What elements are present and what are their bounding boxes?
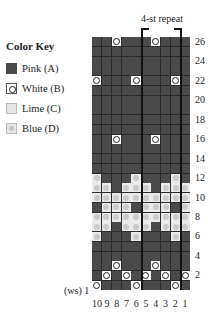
chart-cell (171, 37, 180, 46)
chart-cell (122, 125, 131, 134)
chart-cell (131, 174, 140, 183)
chart-cell (151, 164, 160, 173)
chart-cell (161, 105, 170, 114)
column-number-label: 4 (151, 298, 161, 309)
chart-cell (122, 193, 131, 202)
chart-cell (112, 203, 121, 212)
chart-cell (112, 242, 121, 251)
chart-cell (161, 125, 170, 134)
column-number-label: 8 (112, 298, 122, 309)
chart-cell (171, 174, 180, 183)
chart-cell (122, 57, 131, 66)
chart-cell (122, 115, 131, 124)
dotted-square-icon (6, 123, 17, 134)
chart-cell (181, 174, 190, 183)
repeat-label: 4-st repeat (140, 13, 184, 24)
chart-cell (161, 232, 170, 241)
chart-cell (161, 203, 170, 212)
chart-cell (171, 271, 180, 280)
key-item-pink: Pink (A) (6, 58, 90, 78)
column-number-label: 5 (141, 298, 151, 309)
chart-cell (112, 193, 121, 202)
chart-cell (171, 96, 180, 105)
chart-cell (181, 86, 190, 95)
row-number-label: 16 (195, 134, 205, 144)
chart-cell (131, 135, 140, 144)
chart-cell (171, 193, 180, 202)
chart-cell (151, 115, 160, 124)
chart-cell (92, 135, 101, 144)
chart-cell (131, 125, 140, 134)
chart-cell (122, 47, 131, 56)
chart-cell (92, 154, 101, 163)
chart-cell (131, 86, 140, 95)
chart-cell (181, 164, 190, 173)
column-number-label: 3 (161, 298, 171, 309)
row-number-label: 4 (195, 251, 200, 261)
chart-cell (122, 66, 131, 75)
chart-cell (131, 66, 140, 75)
chart-cell (102, 66, 111, 75)
chart-cell (122, 183, 131, 192)
chart-cell (171, 105, 180, 114)
chart-cell (92, 271, 101, 280)
chart-cell (112, 57, 121, 66)
chart-cell (102, 37, 111, 46)
chart-cell (102, 193, 111, 202)
row-number-label: 20 (195, 95, 205, 105)
chart-cell (151, 174, 160, 183)
chart-cell (112, 105, 121, 114)
chart-cell (112, 261, 121, 270)
chart-cell (151, 154, 160, 163)
chart-cell (151, 144, 160, 153)
chart-cell (92, 57, 101, 66)
chart-cell (131, 271, 140, 280)
chart-cell (122, 76, 131, 85)
key-item-blue: Blue (D) (6, 118, 90, 138)
chart-cell (92, 183, 101, 192)
chart-cell (151, 135, 160, 144)
chart-cell (92, 37, 101, 46)
chart-cell (151, 271, 160, 280)
chart-cell (181, 222, 190, 231)
chart-cell (181, 125, 190, 134)
chart-cell (122, 86, 131, 95)
chart-cell (92, 174, 101, 183)
chart-cell (161, 135, 170, 144)
chart-cell (181, 47, 190, 56)
column-labels: 10987654321 (92, 298, 190, 309)
row-number-label: 10 (195, 193, 205, 203)
chart-cell (92, 105, 101, 114)
chart-cell (131, 76, 140, 85)
chart-cell (181, 193, 190, 202)
chart-cell (112, 174, 121, 183)
chart-cell (102, 203, 111, 212)
chart-cell (131, 164, 140, 173)
chart-cell (112, 154, 121, 163)
chart-cell (102, 86, 111, 95)
key-label: White (B) (22, 83, 64, 94)
chart-cell (151, 232, 160, 241)
chart-cell (151, 261, 160, 270)
chart-cell (102, 271, 111, 280)
chart-cell (181, 37, 190, 46)
chart-cell (112, 47, 121, 56)
chart-cell (161, 86, 170, 95)
chart-cell (181, 203, 190, 212)
chart-cell (102, 154, 111, 163)
chart-cell (131, 105, 140, 114)
row-number-label: 6 (195, 231, 200, 241)
chart-cell (181, 144, 190, 153)
chart-cell (92, 86, 101, 95)
chart-cell (102, 261, 111, 270)
chart-cell (112, 164, 121, 173)
chart-cell (171, 115, 180, 124)
chart-cell (112, 125, 121, 134)
chart-cell (161, 57, 170, 66)
chart-cell (171, 203, 180, 212)
chart-cell (181, 281, 190, 290)
chart-cell (171, 135, 180, 144)
chart-cell (102, 252, 111, 261)
chart-cell (112, 222, 121, 231)
key-label: Pink (A) (22, 63, 58, 74)
